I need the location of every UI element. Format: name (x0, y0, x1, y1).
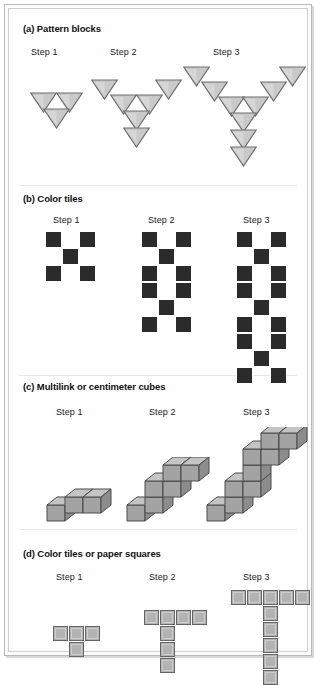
paper-square (263, 654, 278, 669)
section-pattern-blocks: (a) Pattern blocks Step 1 Step 2 Step 3 (9, 9, 307, 187)
paper-square (160, 626, 175, 641)
color-tile (45, 231, 62, 248)
color-tile (158, 299, 175, 316)
paper-square (176, 610, 191, 625)
color-tile (236, 265, 253, 282)
color-tile (175, 231, 192, 248)
color-tile (158, 248, 175, 265)
color-tile (270, 316, 287, 333)
section-title-c: (c) Multilink or centimeter cubes (23, 381, 165, 392)
color-tile (253, 350, 270, 367)
paper-square (231, 590, 246, 605)
paper-square (263, 670, 278, 685)
color-tile (236, 282, 253, 299)
color-tile (45, 265, 62, 282)
step-label-a-2: Step 2 (110, 47, 137, 57)
color-tile (175, 316, 192, 333)
step-label-b-2: Step 2 (148, 215, 175, 225)
paper-square (144, 610, 159, 625)
figure-frame: (a) Pattern blocks Step 1 Step 2 Step 3 (4, 4, 312, 656)
cube-group-step2 (125, 457, 215, 527)
color-tile (253, 299, 270, 316)
paper-square (263, 638, 278, 653)
color-tile (141, 316, 158, 333)
figure-inner: (a) Pattern blocks Step 1 Step 2 Step 3 (8, 8, 308, 652)
color-tile (141, 282, 158, 299)
color-tile (62, 248, 79, 265)
section-color-tiles: (b) Color tiles Step 1 Step 2 Step 3 (9, 187, 307, 353)
paper-square (263, 590, 278, 605)
color-tile (236, 333, 253, 350)
color-tile (175, 265, 192, 282)
paper-square (85, 626, 100, 641)
paper-square (160, 610, 175, 625)
cube-group-step1 (45, 477, 117, 527)
paper-square (247, 590, 262, 605)
step-label-d-1: Step 1 (56, 572, 83, 582)
paper-square (295, 590, 310, 605)
paper-square (263, 606, 278, 621)
step-label-a-3: Step 3 (213, 47, 240, 57)
section-title-b: (b) Color tiles (23, 193, 83, 204)
paper-square (69, 626, 84, 641)
paper-square (69, 642, 84, 657)
section-title-a: (a) Pattern blocks (23, 23, 101, 34)
color-tile (79, 231, 96, 248)
color-tile (175, 282, 192, 299)
color-tile (270, 333, 287, 350)
step-label-d-2: Step 2 (149, 572, 176, 582)
color-tile (141, 231, 158, 248)
step-label-b-3: Step 3 (243, 215, 270, 225)
paper-square (279, 590, 294, 605)
color-tile (270, 231, 287, 248)
paper-square (263, 622, 278, 637)
section-divider (19, 185, 297, 186)
section-cubes: (c) Multilink or centimeter cubes Step 1… (9, 369, 307, 534)
color-tile (270, 265, 287, 282)
paper-square (160, 658, 175, 673)
color-tile (270, 282, 287, 299)
color-tile (253, 248, 270, 265)
color-tile (236, 231, 253, 248)
paper-square (53, 626, 68, 641)
section-paper-squares: (d) Color tiles or paper squares Step 1 … (9, 534, 307, 654)
step-label-b-1: Step 1 (53, 215, 80, 225)
color-tile (141, 265, 158, 282)
cube-group-step3 (205, 427, 315, 527)
section-title-d: (d) Color tiles or paper squares (23, 548, 161, 559)
paper-square (160, 642, 175, 657)
step-label-c-1: Step 1 (56, 407, 83, 417)
paper-square (192, 610, 207, 625)
step-label-c-3: Step 3 (243, 407, 270, 417)
section-divider (19, 529, 297, 530)
step-label-a-1: Step 1 (31, 47, 58, 57)
color-tile (236, 316, 253, 333)
color-tile (79, 265, 96, 282)
step-label-c-2: Step 2 (149, 407, 176, 417)
step-label-d-3: Step 3 (243, 572, 270, 582)
